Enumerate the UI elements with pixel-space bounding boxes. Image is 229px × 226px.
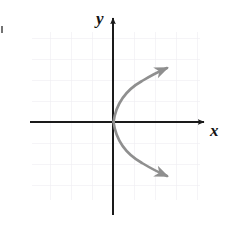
graph-figure: y x xyxy=(0,0,229,226)
grid-area xyxy=(32,32,200,200)
y-axis-label: y xyxy=(96,10,104,27)
x-axis-label: x xyxy=(210,122,219,139)
coordinate-plane xyxy=(0,0,229,226)
